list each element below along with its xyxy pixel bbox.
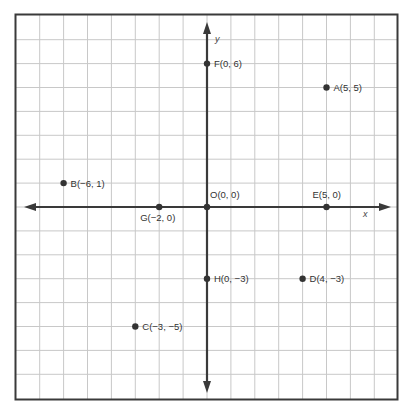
point-label: H(0, −3) (214, 273, 249, 284)
point-label: B(−6, 1) (71, 178, 105, 189)
point-label: A(5, 5) (334, 82, 363, 93)
point-marker (204, 204, 210, 210)
point-a: A(5, 5) (323, 82, 362, 93)
point-marker (299, 276, 305, 282)
coordinate-plane: x y A(5, 5)B(−6, 1)C(−3, −5)D(4, −3)E(5,… (0, 0, 409, 416)
point-marker (132, 323, 138, 329)
point-marker (60, 180, 66, 186)
points: A(5, 5)B(−6, 1)C(−3, −5)D(4, −3)E(5, 0)F… (60, 58, 362, 332)
point-label: D(4, −3) (310, 273, 345, 284)
point-label: G(−2, 0) (140, 212, 175, 223)
point-marker (323, 204, 329, 210)
point-marker (323, 84, 329, 90)
y-axis-label: y (214, 34, 220, 44)
point-label: F(0, 6) (214, 58, 242, 69)
point-label: C(−3, −5) (142, 321, 182, 332)
point-f: F(0, 6) (204, 58, 242, 69)
point-marker (204, 60, 210, 66)
point-marker (204, 276, 210, 282)
point-label: E(5, 0) (313, 189, 342, 200)
point-label: O(0, 0) (210, 189, 240, 200)
point-marker (156, 204, 162, 210)
x-axis-label: x (362, 209, 368, 219)
